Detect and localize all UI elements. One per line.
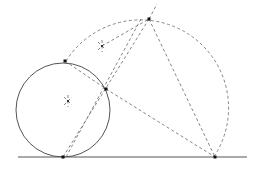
tangent-point xyxy=(62,156,65,159)
center-marker xyxy=(67,100,69,102)
circle-top-point xyxy=(64,60,67,63)
apex-to-tangent-b-line xyxy=(66,19,141,157)
apex-extension-line xyxy=(149,4,157,19)
circle-right-point xyxy=(105,88,108,91)
upper-marker xyxy=(101,45,103,47)
base-right-point xyxy=(214,156,217,159)
apex-point xyxy=(148,18,151,21)
upper-marker-to-apex-line xyxy=(102,19,149,46)
cross-markers xyxy=(64,40,106,107)
geometry-diagram xyxy=(0,0,256,172)
small-circle xyxy=(16,63,110,157)
dashed-construction-lines xyxy=(63,4,215,157)
circle-top-to-right-line xyxy=(65,61,106,89)
points xyxy=(62,18,217,159)
circle-right-to-base-right-line xyxy=(106,89,215,157)
